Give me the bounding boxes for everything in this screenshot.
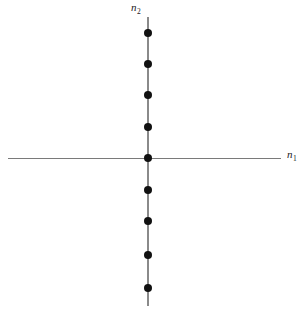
data-point [144, 251, 152, 259]
data-point [144, 123, 152, 131]
axis-label-n2: n2 [131, 2, 141, 13]
data-point [144, 186, 152, 194]
axis-label-n1-subscript: 1 [293, 154, 297, 163]
data-point [144, 29, 152, 37]
data-point [144, 91, 152, 99]
axis-label-n1-symbol: n [287, 148, 293, 160]
data-point [144, 217, 152, 225]
coordinate-plot-figure: n2 n1 [0, 0, 304, 313]
data-point [144, 284, 152, 292]
data-point [144, 154, 152, 162]
axis-label-n2-symbol: n [131, 1, 137, 13]
axis-label-n2-subscript: 2 [137, 7, 141, 16]
axis-label-n1: n1 [287, 149, 297, 160]
data-point [144, 60, 152, 68]
